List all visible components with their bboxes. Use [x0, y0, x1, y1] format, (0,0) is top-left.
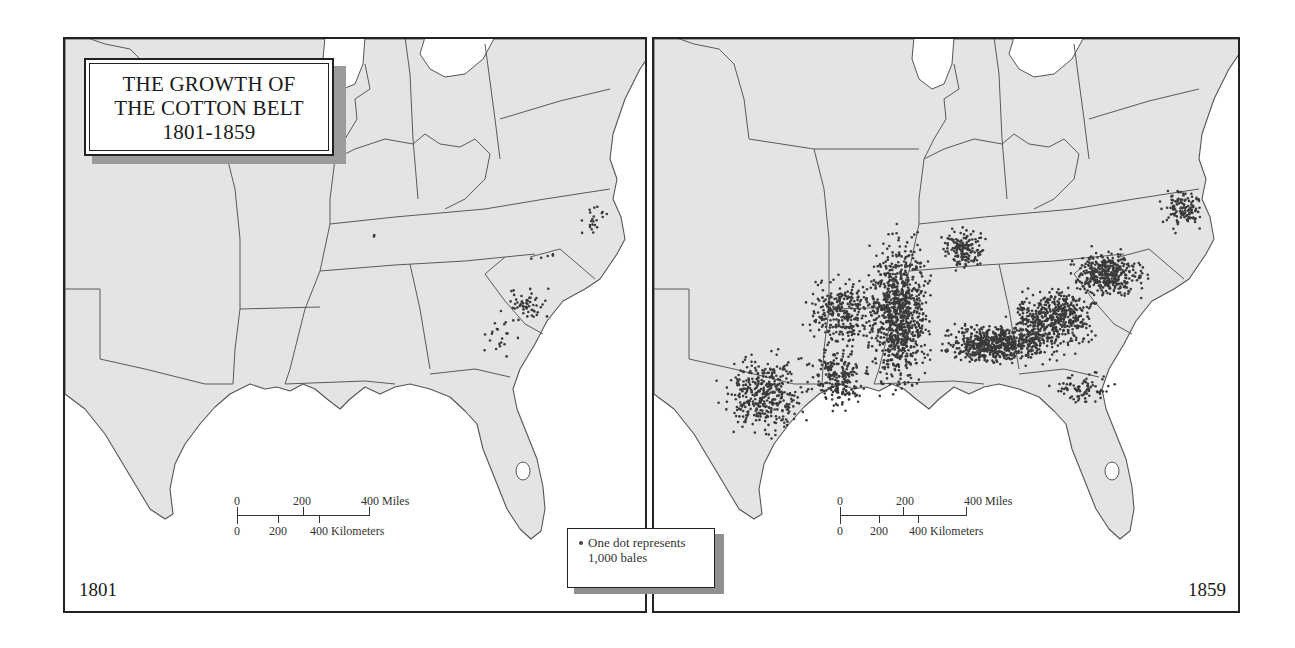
scale-km-200: 200 — [870, 524, 888, 539]
map-title: THE GROWTH OF THE COTTON BELT 1801-1859 — [86, 72, 332, 144]
legend-line-1: One dot represents — [588, 535, 685, 550]
title-line-3: 1801-1859 — [86, 120, 332, 144]
scale-tick — [319, 515, 320, 523]
scale-line — [840, 515, 967, 516]
scale-km-400: 400 Kilometers — [909, 524, 983, 539]
scale-km-400: 400 Kilometers — [310, 524, 384, 539]
legend-line-2: 1,000 bales — [588, 550, 647, 565]
scale-tick — [237, 507, 238, 524]
scale-tick — [840, 507, 841, 524]
map-panel-1859: 0 200 400 Miles 0 200 400 Kilometers 185… — [652, 37, 1240, 613]
legend-box: One dot represents 1,000 bales — [567, 528, 715, 588]
year-label-1859: 1859 — [1188, 579, 1226, 601]
dot-symbol-icon — [579, 541, 583, 545]
scale-tick — [303, 507, 304, 515]
map-title-box: THE GROWTH OF THE COTTON BELT 1801-1859 — [84, 58, 334, 156]
title-line-2: THE COTTON BELT — [86, 96, 332, 120]
scale-line — [237, 515, 370, 516]
scale-miles-400: 400 Miles — [964, 494, 1012, 509]
scale-miles-200: 200 — [896, 494, 914, 509]
year-label-1801: 1801 — [79, 579, 117, 601]
scale-tick — [369, 507, 370, 515]
scale-tick — [879, 515, 880, 523]
scale-tick — [966, 507, 967, 515]
scale-km-0: 0 — [234, 524, 240, 539]
scale-km-0: 0 — [837, 524, 843, 539]
title-line-1: THE GROWTH OF — [86, 72, 332, 96]
scale-miles-200: 200 — [293, 494, 311, 509]
scale-tick — [918, 515, 919, 523]
scale-tick — [903, 507, 904, 515]
scale-tick — [278, 515, 279, 523]
scale-km-200: 200 — [269, 524, 287, 539]
